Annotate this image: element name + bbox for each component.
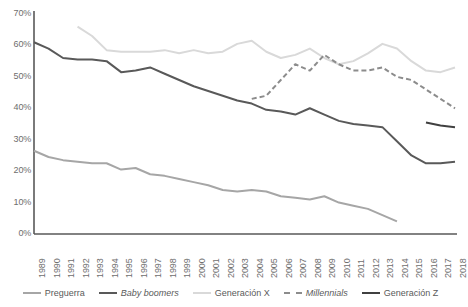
legend-label: Generación X bbox=[215, 288, 270, 298]
x-tick-label: 2017 bbox=[444, 258, 453, 278]
x-tick-label: 2003 bbox=[241, 258, 250, 278]
x-tick-label: 2000 bbox=[198, 258, 207, 278]
x-tick-label: 1994 bbox=[111, 258, 120, 278]
x-tick-label: 1997 bbox=[154, 258, 163, 278]
x-tick-label: 2011 bbox=[357, 259, 366, 278]
x-tick-label: 1989 bbox=[38, 258, 47, 278]
x-tick-label: 2018 bbox=[459, 258, 468, 278]
x-tick-label: 2013 bbox=[386, 258, 395, 278]
legend-swatch-icon bbox=[193, 292, 211, 294]
x-tick-label: 2006 bbox=[285, 258, 294, 278]
x-axis-labels: 1989199019911992199319941995199619971998… bbox=[0, 234, 461, 282]
legend-swatch-icon bbox=[284, 292, 302, 294]
x-tick-label: 2009 bbox=[328, 258, 337, 278]
x-tick-label: 2016 bbox=[430, 258, 439, 278]
legend-item[interactable]: Generación Z bbox=[362, 288, 439, 298]
legend-swatch-icon bbox=[99, 292, 117, 294]
legend-item[interactable]: Millennials bbox=[284, 288, 348, 298]
x-tick-label: 2007 bbox=[299, 258, 308, 278]
series-line-preguerra bbox=[34, 151, 397, 222]
x-tick-label: 1991 bbox=[67, 258, 76, 278]
legend-label: Millennials bbox=[306, 288, 348, 298]
chart-legend: PreguerraBaby boomersGeneración XMillenn… bbox=[0, 282, 461, 304]
legend-label: Baby boomers bbox=[121, 288, 179, 298]
x-tick-label: 2004 bbox=[256, 258, 265, 278]
legend-item[interactable]: Preguerra bbox=[23, 288, 85, 298]
legend-item[interactable]: Generación X bbox=[193, 288, 270, 298]
legend-label: Preguerra bbox=[45, 288, 85, 298]
x-tick-label: 2014 bbox=[401, 258, 410, 278]
x-tick-label: 2010 bbox=[343, 258, 352, 278]
x-tick-label: 2008 bbox=[314, 258, 323, 278]
x-tick-label: 1995 bbox=[125, 258, 134, 278]
x-tick-label: 2005 bbox=[270, 258, 279, 278]
x-tick-label: 1990 bbox=[53, 258, 62, 278]
x-tick-label: 1992 bbox=[82, 258, 91, 278]
legend-label: Generación Z bbox=[384, 288, 439, 298]
series-line-generacion-x bbox=[78, 27, 455, 73]
series-line-millennials bbox=[252, 55, 455, 108]
x-tick-label: 2015 bbox=[415, 258, 424, 278]
series-line-baby-boomers bbox=[34, 42, 455, 163]
x-tick-label: 2001 bbox=[212, 258, 221, 278]
legend-item[interactable]: Baby boomers bbox=[99, 288, 179, 298]
x-tick-label: 1998 bbox=[169, 258, 178, 278]
legend-swatch-icon bbox=[23, 292, 41, 294]
x-tick-label: 2002 bbox=[227, 258, 236, 278]
legend-swatch-icon bbox=[362, 292, 380, 294]
x-tick-label: 1996 bbox=[140, 258, 149, 278]
series-line-generacion-z bbox=[426, 122, 455, 127]
x-tick-label: 1993 bbox=[96, 258, 105, 278]
x-tick-label: 1999 bbox=[183, 258, 192, 278]
x-tick-label: 2012 bbox=[372, 258, 381, 278]
